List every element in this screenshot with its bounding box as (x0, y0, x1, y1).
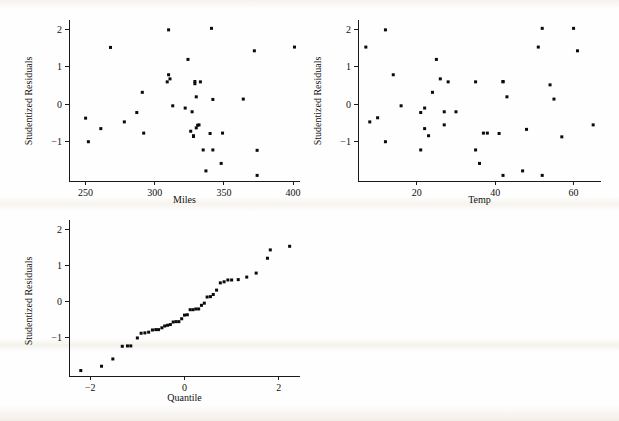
data-point (560, 135, 563, 138)
data-point (189, 130, 192, 133)
x-tick-label: 2 (276, 382, 281, 393)
data-point (392, 73, 395, 76)
data-point (443, 110, 446, 113)
data-point (211, 148, 214, 151)
data-point (147, 331, 150, 334)
data-point (99, 127, 102, 130)
x-tick-label: 60 (569, 187, 579, 198)
data-point (180, 317, 183, 320)
data-point (223, 280, 226, 283)
data-point (592, 123, 595, 126)
scatter-plot-normal-quantile: −1012−202QuantileStudentized Residuals (0, 204, 330, 421)
chart-canvas-normal-quantile-plot: −1012−202QuantileStudentized Residuals (0, 204, 330, 421)
data-point (502, 174, 505, 177)
data-point (183, 314, 186, 317)
data-point (255, 272, 258, 275)
figure-page: −1012250300350400MilesStudentized Residu… (0, 0, 619, 421)
data-point (157, 328, 160, 331)
y-tick-label: 0 (57, 296, 62, 307)
data-point (109, 46, 112, 49)
data-point (169, 323, 172, 326)
data-point (419, 111, 422, 114)
data-point (168, 77, 171, 80)
data-point (212, 293, 215, 296)
data-point (142, 132, 145, 135)
data-point (121, 345, 124, 348)
data-point (186, 58, 189, 61)
data-point (443, 123, 446, 126)
data-point (478, 162, 481, 165)
data-point (175, 320, 178, 323)
data-point (198, 123, 201, 126)
data-point (171, 104, 174, 107)
data-point (123, 120, 126, 123)
chart-canvas-residuals-vs-miles: −1012250300350400MilesStudentized Residu… (0, 0, 310, 210)
scatter-plot-residuals-vs-temp: −1012204060TempStudentized Residuals (309, 0, 619, 210)
data-point (498, 132, 501, 135)
data-point (237, 278, 240, 281)
x-tick-label: 250 (78, 187, 93, 198)
data-point (111, 357, 114, 360)
data-point (541, 27, 544, 30)
x-tick-label: 40 (490, 187, 500, 198)
data-point (135, 111, 138, 114)
data-point (230, 278, 233, 281)
data-point (151, 328, 154, 331)
data-point (206, 296, 209, 299)
data-point (419, 148, 422, 151)
data-point (167, 28, 170, 31)
data-point (204, 169, 207, 172)
data-point (486, 132, 489, 135)
chart-canvas-residuals-vs-temp: −1012204060TempStudentized Residuals (309, 0, 619, 210)
x-tick-label: 350 (216, 187, 231, 198)
y-axis-title: Studentized Residuals (23, 257, 34, 346)
data-point (256, 174, 259, 177)
data-point (226, 278, 229, 281)
data-point (521, 169, 524, 172)
data-point (189, 308, 192, 311)
data-point (209, 295, 212, 298)
data-point (384, 28, 387, 31)
data-point (293, 46, 296, 49)
data-point (143, 331, 146, 334)
data-point (203, 302, 206, 305)
data-point (160, 326, 163, 329)
data-point (210, 27, 213, 30)
data-point (368, 120, 371, 123)
data-point (191, 308, 194, 311)
data-point (136, 336, 139, 339)
y-axis-title: Studentized Residuals (312, 57, 323, 146)
data-point (384, 140, 387, 143)
data-point (202, 148, 205, 151)
data-point (552, 98, 555, 101)
data-point (435, 58, 438, 61)
scatter-plot-residuals-vs-miles: −1012250300350400MilesStudentized Residu… (0, 0, 310, 210)
data-point (439, 77, 442, 80)
data-point (269, 248, 272, 251)
data-point (197, 307, 200, 310)
data-point (576, 49, 579, 52)
data-point (253, 49, 256, 52)
data-point (126, 344, 129, 347)
data-point (400, 104, 403, 107)
data-point (154, 328, 157, 331)
data-point (220, 162, 223, 165)
data-point (194, 307, 197, 310)
data-point (184, 107, 187, 110)
x-tick-label: 400 (286, 187, 301, 198)
y-tick-label: −1 (51, 332, 62, 343)
data-point (166, 324, 169, 327)
data-point (166, 80, 169, 83)
y-tick-label: 1 (57, 260, 62, 271)
data-point (87, 140, 90, 143)
data-point (474, 148, 477, 151)
data-point (454, 110, 457, 113)
y-tick-label: 0 (346, 99, 351, 110)
data-point (376, 116, 379, 119)
y-tick-label: 2 (57, 24, 62, 35)
y-axis-title: Studentized Residuals (23, 57, 34, 146)
data-point (242, 98, 245, 101)
data-point (256, 149, 259, 152)
data-point (163, 325, 166, 328)
x-axis-title: Temp (468, 194, 491, 205)
